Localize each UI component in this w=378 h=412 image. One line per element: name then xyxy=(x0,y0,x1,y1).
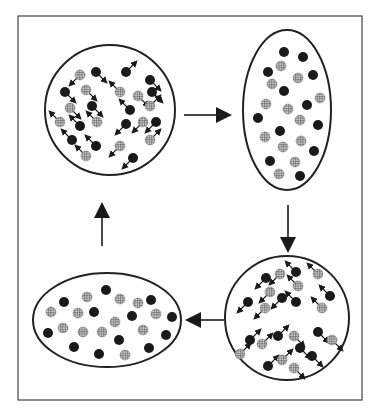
dark-particle xyxy=(308,70,318,80)
dark-particle xyxy=(161,330,171,340)
dark-particle xyxy=(291,267,301,277)
hatched-particle xyxy=(115,87,125,97)
dark-particle xyxy=(60,87,70,97)
dark-particle xyxy=(263,67,273,77)
hatched-particle xyxy=(290,157,300,167)
dark-particle xyxy=(263,361,273,371)
dark-particle xyxy=(91,141,101,151)
container-circle xyxy=(45,45,175,175)
hatched-particle xyxy=(283,104,293,114)
hatched-particle xyxy=(276,61,286,71)
dark-particle xyxy=(128,153,138,163)
dark-particle xyxy=(243,297,253,307)
hatched-particle xyxy=(293,73,303,83)
hatched-particle xyxy=(82,292,92,302)
hatched-particle xyxy=(145,135,155,145)
dark-particle xyxy=(94,349,104,359)
dark-particle xyxy=(144,343,154,353)
hatched-particle xyxy=(151,309,161,319)
dark-particle xyxy=(89,307,99,317)
hatched-particle xyxy=(115,294,125,304)
hatched-particle xyxy=(257,339,267,349)
hatched-particle xyxy=(58,323,68,333)
hatched-particle xyxy=(293,281,303,291)
hatched-particle xyxy=(315,93,325,103)
hatched-particle xyxy=(81,151,91,161)
hatched-particle xyxy=(138,325,148,335)
dark-particle xyxy=(307,351,317,361)
hatched-particle xyxy=(267,79,277,89)
hatched-particle xyxy=(46,307,56,317)
arrow-down-icon xyxy=(280,205,296,253)
hatched-particle xyxy=(295,115,305,125)
hatched-particle xyxy=(78,327,88,337)
hatched-particle xyxy=(97,327,107,337)
dark-particle xyxy=(298,52,308,62)
dark-particle xyxy=(313,327,323,337)
dark-particle xyxy=(275,126,285,136)
hatched-particle xyxy=(278,142,288,152)
hatched-particle xyxy=(110,317,120,327)
hatched-particle xyxy=(261,99,271,109)
stage-bottom-right xyxy=(225,256,349,380)
hatched-particle xyxy=(138,117,148,127)
hatched-particle xyxy=(296,136,306,146)
stage-bottom-left xyxy=(33,273,181,367)
dark-particle xyxy=(146,295,156,305)
dark-particle xyxy=(291,297,301,307)
dark-particle xyxy=(114,335,124,345)
hatched-particle xyxy=(275,269,285,279)
arrow-right-icon xyxy=(184,107,232,123)
dark-particle xyxy=(67,135,77,145)
dark-particle xyxy=(87,101,97,111)
hatched-particle xyxy=(313,269,323,279)
hatched-particle xyxy=(115,141,125,151)
dark-particle xyxy=(147,87,157,97)
dark-particle xyxy=(265,156,275,166)
hatched-particle xyxy=(317,303,327,313)
dark-particle xyxy=(245,335,255,345)
dark-particle xyxy=(277,293,287,303)
dark-particle xyxy=(313,120,323,130)
dark-particle xyxy=(261,273,271,283)
dark-particle xyxy=(145,75,155,85)
hatched-particle xyxy=(92,117,102,127)
hatched-particle xyxy=(75,70,85,80)
dark-particle xyxy=(75,121,85,131)
dark-particle xyxy=(302,100,312,110)
dark-particle xyxy=(121,67,131,77)
stage-top-left xyxy=(45,45,175,175)
hatched-particle xyxy=(120,350,130,360)
dark-particle xyxy=(295,343,305,353)
hatched-particle xyxy=(277,355,287,365)
dark-particle xyxy=(101,285,111,295)
stages-group xyxy=(33,30,349,380)
stage-top-right xyxy=(243,30,331,190)
dark-particle xyxy=(69,342,79,352)
hatched-particle xyxy=(289,331,299,341)
hatched-particle xyxy=(133,298,143,308)
dark-particle xyxy=(151,117,161,127)
dark-particle xyxy=(325,291,335,301)
hatched-particle xyxy=(260,303,270,313)
dark-particle xyxy=(295,171,305,181)
dark-particle xyxy=(59,297,69,307)
dark-particle xyxy=(253,113,263,123)
dark-particle xyxy=(127,311,137,321)
dark-particle xyxy=(43,328,53,338)
dark-particle xyxy=(309,146,319,156)
hatched-particle xyxy=(327,335,337,345)
dark-particle xyxy=(167,312,177,322)
arrow-left-icon xyxy=(185,312,224,328)
dark-particle xyxy=(279,47,289,57)
hatched-particle xyxy=(274,169,284,179)
hatched-particle xyxy=(289,363,299,373)
dark-particle xyxy=(273,331,283,341)
hatched-particle xyxy=(55,117,65,127)
hatched-particle xyxy=(145,101,155,111)
arrow-up-icon xyxy=(94,202,110,246)
hatched-particle xyxy=(73,308,83,318)
particle-cycle-diagram xyxy=(0,0,378,412)
hatched-particle xyxy=(260,132,270,142)
hatched-particle xyxy=(133,91,143,101)
